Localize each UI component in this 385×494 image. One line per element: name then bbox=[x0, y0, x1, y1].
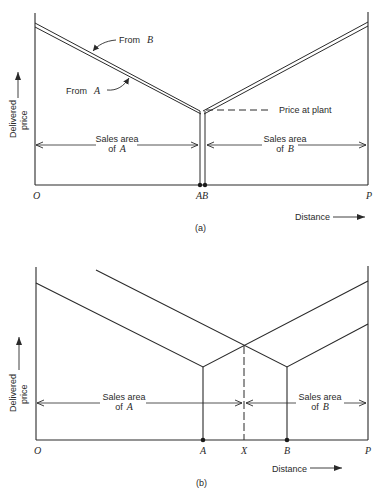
svg-text:price: price bbox=[19, 384, 29, 404]
spatial-pricing-diagram: Price at plant FromB FromA Sales area of… bbox=[0, 0, 385, 494]
svg-text:FromA: FromA bbox=[66, 85, 101, 96]
panel-a-from-b-pointer bbox=[93, 40, 116, 51]
panel-b-sales-area-b-of: of bbox=[311, 402, 319, 412]
panel-b-caption: (b) bbox=[196, 478, 207, 488]
panel-a-plant-label: AB bbox=[195, 190, 208, 201]
svg-text:ofB: ofB bbox=[311, 401, 329, 412]
panel-a-from-a-label: From bbox=[66, 86, 87, 96]
panel-a-plant-a-dot bbox=[198, 183, 202, 187]
panel-b-sales-area-b-var: B bbox=[323, 401, 329, 412]
svg-text:Delivered: Delivered bbox=[8, 100, 18, 138]
panel-b-plant-b-dot bbox=[285, 438, 290, 443]
svg-text:Delivered: Delivered bbox=[8, 374, 18, 412]
svg-text:ofB: ofB bbox=[276, 143, 294, 154]
panel-b-origin-label: O bbox=[34, 445, 41, 456]
panel-a-from-a-var: A bbox=[93, 85, 101, 96]
panel-a-from-b-var: B bbox=[147, 34, 153, 45]
panel-a-price-line-right bbox=[203, 22, 368, 114]
panel-a-plant-b-dot bbox=[203, 183, 207, 187]
panel-b-x-label: X bbox=[240, 445, 248, 456]
panel-b-plant-a-dot bbox=[201, 438, 206, 443]
panel-b-x-axis-label: Distance bbox=[272, 464, 307, 474]
svg-text:ofA: ofA bbox=[108, 143, 127, 154]
svg-text:FromB: FromB bbox=[119, 34, 153, 45]
panel-b-sales-area-a-label: Sales area bbox=[102, 392, 145, 402]
panel-b-sales-area-b-label: Sales area bbox=[298, 392, 341, 402]
panel-a-sales-area-a-of: of bbox=[108, 144, 116, 154]
panel-a-y-axis-label: Delivered price bbox=[8, 72, 29, 138]
panel-a-sales-area-b-label: Sales area bbox=[263, 134, 306, 144]
svg-text:ofA: ofA bbox=[115, 401, 134, 412]
panel-a-sales-area-a-var: A bbox=[119, 143, 127, 154]
panel-b: Sales area ofA Sales area ofB O A X B P … bbox=[8, 266, 371, 488]
panel-a-caption: (a) bbox=[195, 223, 206, 233]
panel-a-from-b-label: From bbox=[119, 35, 140, 45]
panel-a-price-line-left bbox=[35, 23, 201, 114]
panel-a: Price at plant FromB FromA Sales area of… bbox=[8, 12, 372, 233]
panel-a-sales-area-a-label: Sales area bbox=[95, 134, 138, 144]
panel-a-price-at-plant-label: Price at plant bbox=[279, 105, 332, 115]
panel-a-origin-label: O bbox=[33, 190, 40, 201]
panel-b-sales-area-a-var: A bbox=[126, 401, 134, 412]
svg-text:price: price bbox=[19, 110, 29, 130]
panel-a-from-a-pointer bbox=[107, 78, 129, 90]
panel-a-sales-area-b-of: of bbox=[276, 144, 284, 154]
panel-b-y-axis-label: Delivered price bbox=[8, 337, 29, 412]
panel-a-end-label: P bbox=[365, 190, 372, 201]
panel-b-end-label: P bbox=[364, 445, 371, 456]
panel-b-a-label: A bbox=[199, 445, 207, 456]
panel-a-x-axis-label: Distance bbox=[295, 212, 330, 222]
panel-b-sales-area-a-of: of bbox=[115, 402, 123, 412]
panel-a-sales-area-b-var: B bbox=[288, 143, 294, 154]
panel-b-b-label: B bbox=[284, 445, 290, 456]
